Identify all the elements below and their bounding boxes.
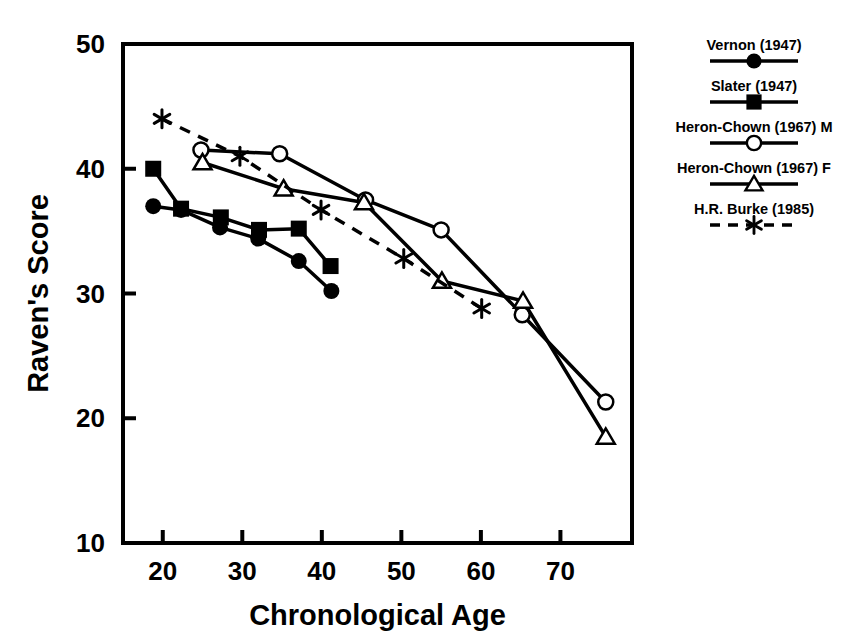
marker-open-circle — [747, 136, 761, 150]
marker-open-circle — [598, 395, 613, 410]
series-heron-chown-1967-m — [193, 143, 613, 410]
x-axis-tick-label: 30 — [228, 556, 257, 586]
plot-frame — [123, 44, 632, 543]
marker-asterisk — [474, 299, 490, 317]
legend-item-label: Heron-Chown (1967) M — [675, 119, 832, 135]
legend-item-label: Slater (1947) — [711, 78, 797, 94]
series-line — [203, 163, 606, 437]
marker-filled-square — [251, 222, 267, 238]
x-axis-title: Chronological Age — [249, 599, 506, 631]
marker-filled-square — [145, 161, 161, 177]
marker-asterisk — [396, 250, 412, 268]
y-axis-tick-label: 50 — [76, 29, 105, 59]
y-axis-tick-label: 10 — [76, 528, 105, 558]
y-axis-tick-label: 40 — [76, 154, 105, 184]
marker-open-circle — [272, 146, 287, 161]
legend-item-label: H.R. Burke (1985) — [694, 201, 814, 217]
y-axis-tick-label: 30 — [76, 279, 105, 309]
legend-item-4[interactable]: Heron-Chown (1967) F — [677, 160, 831, 190]
x-axis-tick-label: 20 — [148, 556, 177, 586]
marker-filled-circle — [323, 283, 339, 299]
marker-asterisk — [154, 110, 170, 128]
marker-asterisk — [313, 201, 329, 219]
marker-filled-square — [291, 221, 307, 237]
marker-filled-square — [746, 94, 761, 109]
x-axis-tick-label: 40 — [307, 556, 336, 586]
y-axis-title: Raven's Score — [22, 194, 54, 393]
marker-filled-square — [323, 258, 339, 274]
x-axis-tick-label: 70 — [546, 556, 575, 586]
legend-item-2[interactable]: Slater (1947) — [710, 78, 798, 110]
legend-item-label: Vernon (1947) — [706, 37, 801, 53]
series-line — [153, 206, 331, 291]
x-axis-tick-label: 60 — [466, 556, 495, 586]
chart-canvas: 2030405060701020304050Chronological AgeR… — [0, 0, 858, 642]
series-line — [201, 150, 606, 402]
marker-open-triangle — [597, 428, 615, 443]
legend-item-3[interactable]: Heron-Chown (1967) M — [675, 119, 832, 150]
marker-filled-circle — [145, 198, 161, 214]
series-heron-chown-1967-f — [194, 154, 615, 444]
marker-filled-square — [213, 209, 229, 225]
legend-item-5[interactable]: H.R. Burke (1985) — [694, 201, 814, 234]
legend-item-label: Heron-Chown (1967) F — [677, 160, 831, 176]
raven-score-vs-age-chart: 2030405060701020304050Chronological AgeR… — [0, 0, 858, 642]
marker-filled-circle — [291, 253, 307, 269]
y-axis-tick-label: 20 — [76, 403, 105, 433]
marker-filled-square — [173, 201, 189, 217]
series-slater-1947 — [145, 161, 338, 274]
x-axis-tick-label: 50 — [387, 556, 416, 586]
legend-item-1[interactable]: Vernon (1947) — [706, 37, 801, 69]
marker-filled-circle — [746, 53, 761, 68]
marker-open-circle — [434, 222, 449, 237]
